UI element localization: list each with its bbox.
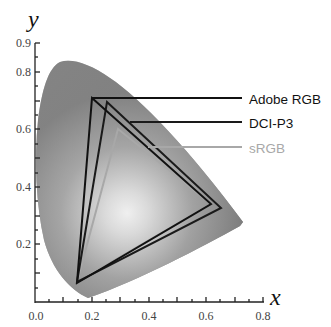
legend-srgb: sRGB — [249, 141, 285, 156]
spectral-locus-inner — [36, 61, 243, 298]
y-tick-label: 0.2 — [16, 237, 31, 251]
x-axis — [35, 297, 264, 302]
x-axis-label: x — [269, 284, 281, 310]
legend-adobe-rgb: Adobe RGB — [249, 92, 321, 107]
y-tick-label: 0.9 — [16, 36, 31, 50]
y-axis-label: y — [26, 6, 39, 32]
y-tick-label: 0.4 — [16, 180, 31, 194]
x-tick-label: 0.0 — [29, 309, 44, 323]
x-tick-label: 0.6 — [199, 309, 214, 323]
chromaticity-diagram: Adobe RGB DCI-P3 sRGB y x 0.2 0.4 0.6 0.… — [0, 0, 331, 327]
x-tick-label: 0.8 — [256, 309, 271, 323]
legend-dci-p3: DCI-P3 — [249, 116, 293, 131]
y-tick-label: 0.8 — [16, 65, 31, 79]
x-tick-label: 0.4 — [142, 309, 157, 323]
y-tick-label: 0.6 — [16, 122, 31, 136]
x-tick-label: 0.2 — [85, 309, 100, 323]
